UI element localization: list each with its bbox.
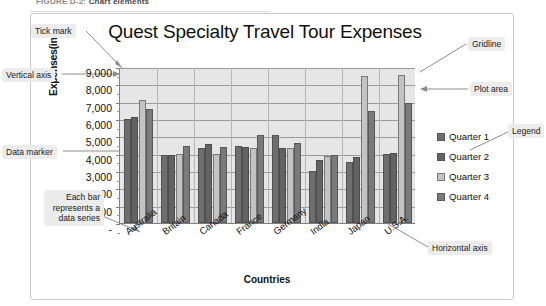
plot-area [119,68,415,224]
bar [124,119,131,223]
bar-group [120,68,157,223]
bar [272,135,279,223]
bar-group [157,68,194,223]
callout-horizontal-axis: Horizontal axis [428,241,492,255]
caption-divider [30,11,270,12]
legend-item: Quarter 1 [437,131,509,142]
bar [346,162,353,223]
figure-caption: FIGURE D-2: Chart elements [36,0,149,6]
bar-group [305,68,342,223]
bar [398,75,405,223]
chart-legend: Quarter 1Quarter 2Quarter 3Quarter 4 [437,131,509,211]
category-separator [305,68,306,223]
bar [368,111,375,223]
legend-item-label: Quarter 1 [449,131,489,142]
category-separator [379,68,380,223]
data-markers [120,68,415,223]
bar [168,155,175,223]
y-axis-tick-label: 4,000 [86,155,112,165]
bar [242,147,249,223]
legend-item: Quarter 2 [437,151,509,162]
bar [235,146,242,223]
bar-group [194,68,231,223]
figure-caption-number: FIGURE D-2: [36,0,86,6]
bar-group [342,68,379,223]
y-axis-tick-label: 9,000 [86,68,112,78]
legend-item-label: Quarter 2 [449,151,489,162]
callout-data-marker: Data marker [2,145,57,159]
legend-item-label: Quarter 3 [449,171,489,182]
category-separator [157,68,158,223]
y-axis-title: Expenses(in$) [47,29,59,96]
figure-caption-text: Chart elements [89,0,150,6]
legend-item: Quarter 3 [437,171,509,182]
y-axis-tick-label: - [109,224,113,234]
legend-item-label: Quarter 4 [449,191,489,202]
bar [383,154,390,223]
bar [131,117,138,223]
category-separator [231,68,232,223]
bar-group [268,68,305,223]
callout-vertical-axis: Vertical axis [2,68,55,82]
bar-group [231,68,268,223]
legend-swatch-icon [437,153,445,161]
legend-swatch-icon [437,133,445,141]
bar [316,160,323,223]
bar [390,153,397,223]
bar [161,155,168,223]
x-axis-category-labels: AustraliaBritainCanadaFranceGermanyIndia… [119,224,415,266]
bar [361,76,368,223]
bar [257,135,264,223]
bar-group [379,68,416,223]
category-separator [342,68,343,223]
bar [353,157,360,223]
y-axis-tick-label: 6,000 [86,120,112,130]
y-axis-tick-label: 7,000 [86,103,112,113]
callout-data-series: Each bar represents a data series [44,190,104,226]
bar [309,171,316,223]
bar [139,100,146,223]
legend-swatch-icon [437,193,445,201]
callout-tick-mark: Tick mark [31,24,76,38]
bar [183,146,190,223]
callout-legend: Legend [508,124,544,138]
callout-plot-area: Plot area [470,82,512,96]
bar [331,155,338,223]
callout-gridline: Gridline [468,37,505,51]
y-axis-tick-label: 3,000 [86,172,112,182]
legend-swatch-icon [437,173,445,181]
chart-title: Quest Specialty Travel Tour Expenses [100,21,430,43]
bar [405,103,412,223]
bar [324,156,331,223]
bar [279,148,286,223]
category-separator [194,68,195,223]
bar [198,148,205,223]
x-axis-title: Countries [119,274,415,285]
y-axis-tick-label: 5,000 [86,137,112,147]
bar [205,144,212,223]
category-separator [268,68,269,223]
y-axis-tick-label: 8,000 [86,85,112,95]
legend-item: Quarter 4 [437,191,509,202]
